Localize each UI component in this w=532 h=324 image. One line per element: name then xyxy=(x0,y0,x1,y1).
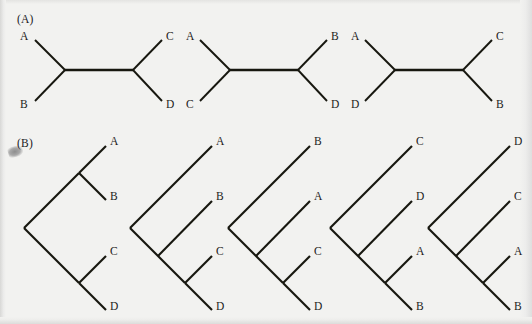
branch-b2-tip3 xyxy=(185,256,212,283)
tip-label-a1-1: A xyxy=(20,30,29,42)
tip-label-a2-1: A xyxy=(186,30,195,42)
tip-label-a2-2: C xyxy=(186,98,194,110)
tip-label-b2-2: B xyxy=(216,190,224,202)
tip-label-b5-2: C xyxy=(514,190,522,202)
tip-label-b4-4: B xyxy=(416,300,424,312)
tip-label-a1-2: B xyxy=(20,98,28,110)
tree-drawing-canvas: A B C D A C B D A D C B xyxy=(0,0,532,324)
branch-a1-tip3 xyxy=(133,40,162,70)
tip-label-b1-4: D xyxy=(110,300,118,312)
branch-b4-tip1 xyxy=(330,146,412,228)
tip-label-b4-2: D xyxy=(416,190,424,202)
panel-b-tree-3: B A C D xyxy=(228,135,323,312)
branch-b3-tip1 xyxy=(228,146,310,228)
branch-a2-tip1 xyxy=(200,40,230,70)
panel-b-tree-1: A B C D xyxy=(24,135,119,312)
branch-b2-tip4 xyxy=(185,283,212,310)
branch-b5-tip2 xyxy=(456,201,510,256)
branch-a1-tip2 xyxy=(35,70,65,101)
branch-b3-tip2 xyxy=(256,201,310,256)
branch-a2-tip4 xyxy=(298,70,327,101)
branch-a2-tip2 xyxy=(200,70,230,101)
panel-a-tree-2: A C B D xyxy=(186,30,339,110)
tip-label-b2-4: D xyxy=(216,300,224,312)
tip-label-b3-3: C xyxy=(314,245,322,257)
branch-b5-tip1 xyxy=(428,146,510,228)
branch-b1-tipD xyxy=(79,283,106,310)
tip-label-b1-1: A xyxy=(110,135,119,147)
panel-b-tree-5: D C A B xyxy=(428,135,523,312)
tip-label-b1-2: B xyxy=(110,190,118,202)
branch-b1-tipA xyxy=(79,146,106,173)
branch-b1-root-lower xyxy=(24,228,79,283)
tip-label-b2-3: C xyxy=(216,245,224,257)
branch-a3-tip4 xyxy=(463,70,492,101)
tip-label-a2-4: D xyxy=(331,98,339,110)
branch-a3-tip1 xyxy=(365,40,395,70)
tip-label-b4-3: A xyxy=(416,245,425,257)
branch-b1-tipC xyxy=(79,256,106,283)
branch-b4-tip4 xyxy=(385,283,412,310)
tip-label-a3-2: D xyxy=(351,98,359,110)
tip-label-b5-1: D xyxy=(514,135,522,147)
branch-b3-tip3 xyxy=(283,256,310,283)
tip-label-b5-3: A xyxy=(514,245,523,257)
branch-a3-tip2 xyxy=(365,70,395,101)
branch-b2-tip1 xyxy=(130,146,212,228)
branch-a3-tip3 xyxy=(463,40,492,70)
tip-label-a3-1: A xyxy=(351,30,360,42)
tip-label-b2-1: A xyxy=(216,135,225,147)
branch-b5-tip4 xyxy=(483,283,510,310)
branch-b4-tip3 xyxy=(385,256,412,283)
tip-label-b1-3: C xyxy=(110,245,118,257)
branch-b4-tip2 xyxy=(358,201,412,256)
branch-a1-tip1 xyxy=(35,40,65,70)
branch-a2-tip3 xyxy=(298,40,327,70)
tip-label-b3-2: A xyxy=(314,190,323,202)
branch-a1-tip4 xyxy=(133,70,162,101)
tip-label-b4-1: C xyxy=(416,135,424,147)
tip-label-a1-4: D xyxy=(166,98,174,110)
panel-b-tree-2: A B C D xyxy=(130,135,225,312)
branch-b5-tip3 xyxy=(483,256,510,283)
tip-label-a3-3: C xyxy=(496,30,504,42)
tip-label-a1-3: C xyxy=(166,30,174,42)
tip-label-b3-1: B xyxy=(314,135,322,147)
branch-b1-root-upper xyxy=(24,173,79,228)
branch-b2-tip2 xyxy=(158,201,212,256)
branch-b1-tipB xyxy=(79,173,106,200)
tip-label-b5-4: B xyxy=(514,300,522,312)
figure-root: (A) (B) A B C D A C B D xyxy=(0,0,532,324)
panel-b-tree-4: C D A B xyxy=(330,135,425,312)
panel-a-tree-3: A D C B xyxy=(351,30,504,110)
tip-label-a2-3: B xyxy=(331,30,339,42)
tip-label-b3-4: D xyxy=(314,300,322,312)
branch-b3-tip4 xyxy=(283,283,310,310)
tip-label-a3-4: B xyxy=(496,98,504,110)
panel-a-tree-1: A B C D xyxy=(20,30,174,110)
